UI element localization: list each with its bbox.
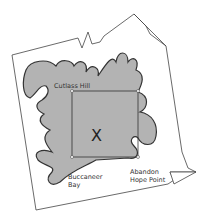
- treasure-x: X: [91, 126, 102, 145]
- label-cutlass-hill: Cutlass Hill: [54, 82, 90, 90]
- label-hope-point: Hope Point: [130, 176, 165, 184]
- map-paper: [0, 0, 207, 223]
- label-bay: Bay: [68, 181, 80, 189]
- label-abandon: Abandon: [130, 168, 159, 176]
- label-buccaneer: Buccaneer: [68, 173, 103, 181]
